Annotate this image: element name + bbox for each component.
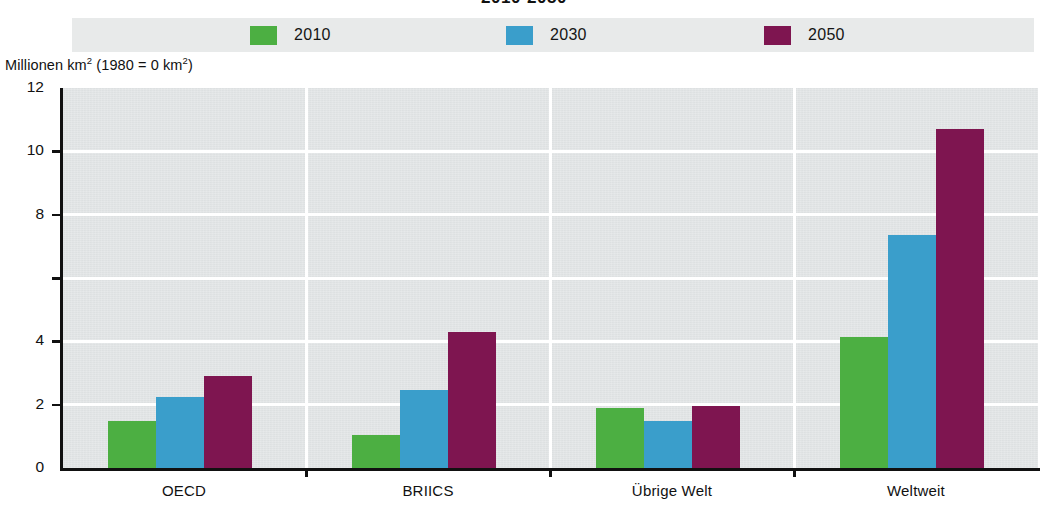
bar-briics-2050[interactable] xyxy=(448,332,496,468)
x-axis-tick xyxy=(549,468,552,477)
y-axis-tick xyxy=(52,277,62,280)
y-axis-tick-label: 4 xyxy=(4,331,44,349)
bar-weltweit-2010[interactable] xyxy=(840,337,888,468)
y-axis-tick-label: 2 xyxy=(4,395,44,413)
bar-übrige-welt-2030[interactable] xyxy=(644,421,692,469)
chart-plot-area xyxy=(62,88,1038,468)
y-axis-tick xyxy=(52,340,62,343)
x-axis-tick xyxy=(793,468,796,477)
bar-weltweit-2030[interactable] xyxy=(888,235,936,468)
group-separator xyxy=(793,88,796,468)
y-axis-tick-label: 12 xyxy=(4,78,44,96)
x-axis-category-label: OECD xyxy=(74,482,294,499)
bar-oecd-2010[interactable] xyxy=(108,421,156,469)
group-separator xyxy=(305,88,308,468)
y-axis-tick-label: 0 xyxy=(4,458,44,476)
y-axis-tick xyxy=(52,214,62,217)
x-axis-tick xyxy=(305,468,308,477)
bar-briics-2030[interactable] xyxy=(400,390,448,468)
x-axis-category-label: Weltweit xyxy=(806,482,1026,499)
y-axis-tick xyxy=(52,150,62,153)
bar-oecd-2030[interactable] xyxy=(156,397,204,468)
x-axis-category-label: BRIICS xyxy=(318,482,538,499)
bar-übrige-welt-2010[interactable] xyxy=(596,408,644,468)
x-axis-category-label: Übrige Welt xyxy=(562,482,782,499)
bar-briics-2010[interactable] xyxy=(352,435,400,468)
group-separator xyxy=(549,88,552,468)
bar-übrige-welt-2050[interactable] xyxy=(692,406,740,468)
chart-plot-wrapper: 02481012OECDBRIICSÜbrige WeltWeltweit xyxy=(0,0,1048,512)
bar-oecd-2050[interactable] xyxy=(204,376,252,468)
bar-weltweit-2050[interactable] xyxy=(936,129,984,468)
y-axis-tick xyxy=(52,404,62,407)
y-axis-tick-label: 8 xyxy=(4,205,44,223)
y-axis-tick-label: 10 xyxy=(4,141,44,159)
